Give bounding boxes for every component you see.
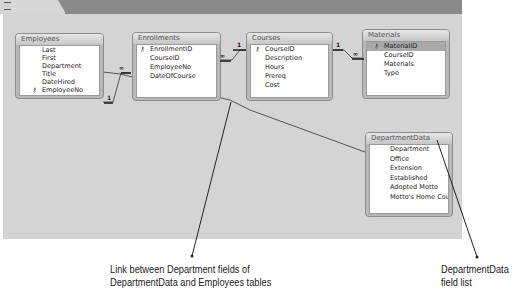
- many-label: ∞: [119, 64, 124, 71]
- one-label: 1: [336, 41, 340, 48]
- many-marker: [121, 59, 364, 73]
- many-label: ∞: [353, 50, 358, 57]
- many-label: ∞: [220, 52, 225, 59]
- relationship-markers: 1 ∞ 1 ∞ 1 ∞: [0, 0, 515, 291]
- annotation-link: Link between Department fields of Depart…: [110, 263, 271, 289]
- one-label: 1: [237, 41, 241, 48]
- annotation-field-list: DepartmentData field list: [441, 263, 509, 289]
- one-label: 1: [107, 94, 111, 101]
